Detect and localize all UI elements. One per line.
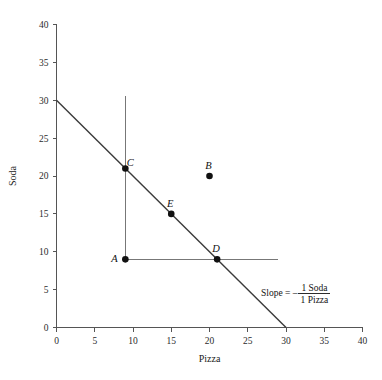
- slope-annotation-prefix: Slope = –: [261, 288, 298, 298]
- chart-container: 05101520253035400510152025303540 ABCDE S…: [0, 0, 382, 380]
- x-tick-label: 10: [128, 336, 138, 346]
- data-point-label-e: E: [166, 198, 174, 209]
- y-tick-label: 25: [39, 134, 49, 144]
- y-tick-label: 0: [44, 323, 49, 333]
- data-point-b: [206, 173, 213, 180]
- data-point-label-a: A: [110, 253, 118, 264]
- annotations-group: Slope = –1 Soda1 Pizza: [261, 283, 331, 305]
- soda-pizza-budget-chart: 05101520253035400510152025303540 ABCDE S…: [0, 0, 382, 380]
- data-point-label-d: D: [211, 243, 220, 254]
- y-tick-label: 5: [44, 285, 49, 295]
- data-point-label-b: B: [205, 160, 212, 171]
- slope-annotation-numerator: 1 Soda: [301, 283, 328, 293]
- y-tick-label: 40: [39, 20, 49, 30]
- x-tick-label: 35: [320, 336, 330, 346]
- x-tick-label: 30: [281, 336, 291, 346]
- data-points-group: ABCDE: [110, 157, 220, 264]
- x-tick-label: 40: [358, 336, 368, 346]
- y-tick-label: 15: [39, 209, 49, 219]
- data-point-d: [214, 256, 221, 263]
- x-tick-label: 5: [92, 336, 97, 346]
- x-tick-label: 0: [54, 336, 59, 346]
- slope-annotation-denominator: 1 Pizza: [301, 295, 329, 305]
- data-point-e: [168, 211, 175, 218]
- x-tick-label: 25: [243, 336, 253, 346]
- x-tick-label: 15: [167, 336, 177, 346]
- data-point-a: [122, 256, 129, 263]
- y-tick-label: 10: [39, 247, 49, 257]
- y-axis-title: Soda: [7, 165, 18, 186]
- x-tick-label: 20: [205, 336, 215, 346]
- axis-titles-group: PizzaSoda: [7, 165, 221, 363]
- y-tick-label: 35: [39, 58, 49, 68]
- data-point-label-c: C: [127, 157, 135, 168]
- y-tick-label: 20: [39, 171, 49, 181]
- y-tick-label: 30: [39, 96, 49, 106]
- x-axis-title: Pizza: [199, 353, 221, 364]
